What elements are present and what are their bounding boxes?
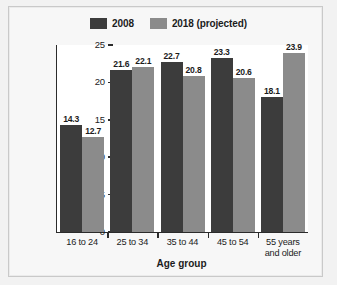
x-axis-label: 55 yearsand older xyxy=(258,237,308,258)
bar-value-label: 18.1 xyxy=(264,86,280,96)
x-axis-title: Age group xyxy=(56,258,307,269)
bar: 22.1 xyxy=(132,67,154,232)
legend-label-2008: 2008 xyxy=(112,18,134,29)
chart-legend: 2008 2018 (projected) xyxy=(0,18,337,29)
bar: 21.6 xyxy=(110,70,132,232)
bar-value-label: 22.1 xyxy=(135,56,151,66)
bar: 20.8 xyxy=(183,76,205,232)
bar-value-label: 20.6 xyxy=(236,67,252,77)
bar-value-label: 21.6 xyxy=(113,59,129,69)
bar: 14.3 xyxy=(60,125,82,232)
legend-entry-2018: 2018 (projected) xyxy=(150,18,247,29)
bar: 22.7 xyxy=(161,62,183,232)
bar-value-label: 23.3 xyxy=(214,47,230,57)
bar-value-label: 12.7 xyxy=(85,126,101,136)
bar-value-label: 23.9 xyxy=(286,42,302,52)
legend-label-2018: 2018 (projected) xyxy=(172,18,247,29)
bar: 18.1 xyxy=(261,97,283,232)
legend-entry-2008: 2008 xyxy=(90,18,134,29)
x-axis-label: 45 to 54 xyxy=(208,237,258,248)
legend-swatch-2018 xyxy=(150,18,167,29)
legend-swatch-2008 xyxy=(90,18,107,29)
bar: 23.9 xyxy=(283,53,305,232)
y-tick-label: 15 xyxy=(95,114,105,125)
x-axis-label: 35 to 44 xyxy=(157,237,207,248)
x-axis-label: 25 to 34 xyxy=(107,237,157,248)
chart-figure: 2008 2018 (projected) Percentage of labo… xyxy=(0,0,337,285)
x-axis-label: 16 to 24 xyxy=(57,237,107,248)
y-tick-mark xyxy=(108,44,113,46)
bar: 20.6 xyxy=(233,78,255,232)
bar-value-label: 20.8 xyxy=(186,65,202,75)
y-tick-label: 25 xyxy=(95,39,105,50)
plot-area: Percentage of labor force 0510152025 14.… xyxy=(56,45,308,233)
bar-value-label: 22.7 xyxy=(164,51,180,61)
y-tick-label: 20 xyxy=(95,76,105,87)
bar: 12.7 xyxy=(82,137,104,232)
bar-value-label: 14.3 xyxy=(63,114,79,124)
bar: 23.3 xyxy=(211,58,233,232)
